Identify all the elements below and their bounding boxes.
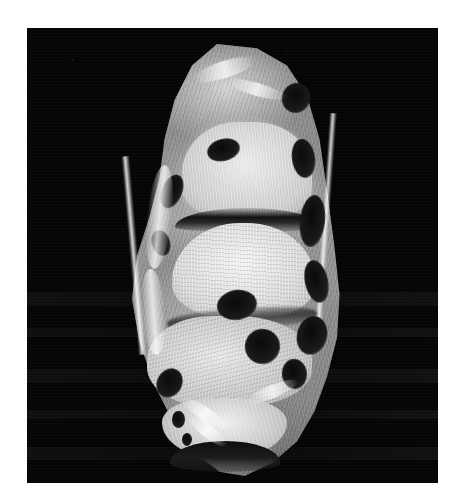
low-signal-structure: [172, 411, 185, 428]
low-signal-structure: [182, 433, 192, 446]
mri-image-page: [0, 0, 460, 502]
distal-tibia: [182, 122, 312, 217]
ankle-anatomy-group: [107, 44, 357, 476]
mri-scan-field: [27, 28, 438, 483]
